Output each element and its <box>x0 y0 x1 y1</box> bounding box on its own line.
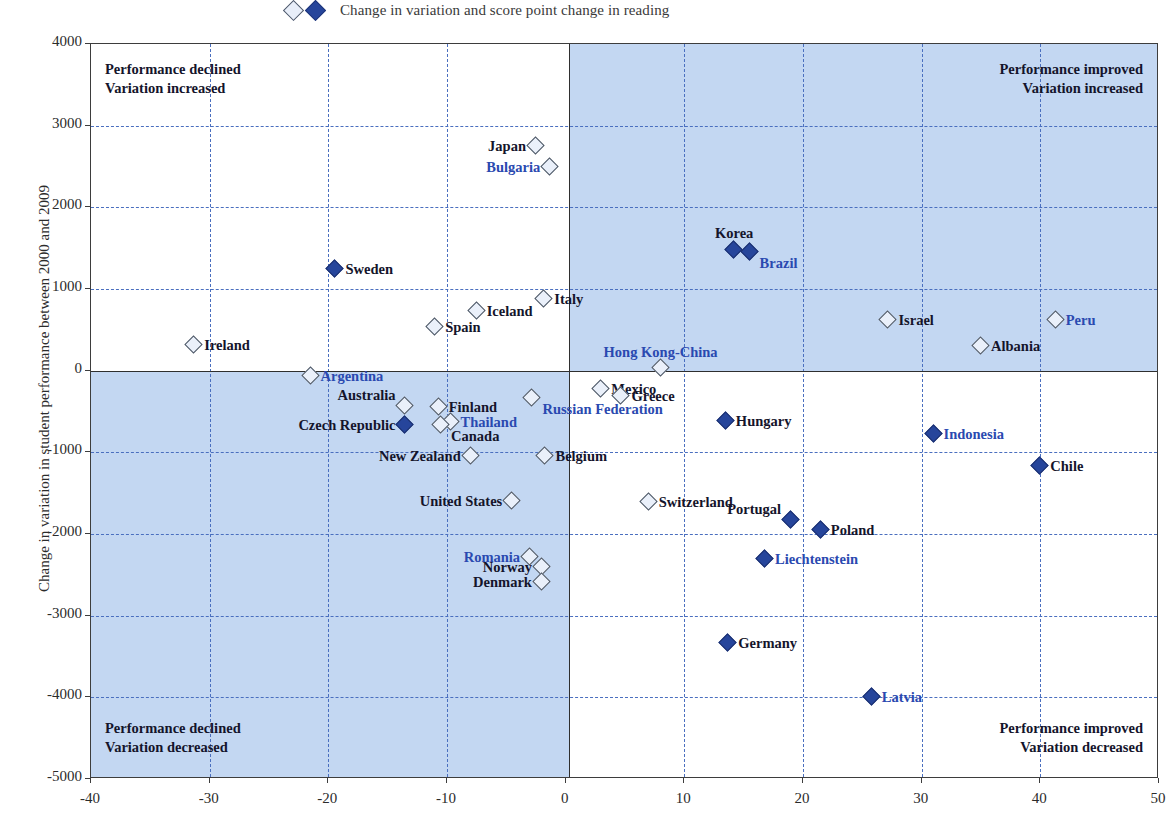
data-point-label: Ireland <box>204 338 250 353</box>
filled-diamond-icon <box>719 634 737 652</box>
data-point-label: Sweden <box>345 262 393 277</box>
quadrant-caption-bottom-right-line2: Variation decreased <box>1000 738 1143 757</box>
gridline-vertical <box>210 44 211 777</box>
y-tick-mark <box>85 533 90 534</box>
filled-diamond-icon <box>305 0 326 21</box>
data-point-label: Liechtenstein <box>775 552 858 567</box>
x-tick-mark <box>209 778 210 783</box>
x-tick-label: 30 <box>891 790 951 807</box>
y-tick-label: 4000 <box>8 33 82 50</box>
data-point-label: Germany <box>738 636 797 651</box>
y-axis-ticks: 40003000200010000-1000-2000-3000-4000-50… <box>0 0 90 820</box>
gridline-horizontal <box>91 534 1157 535</box>
data-point-label: Italy <box>554 292 583 307</box>
data-point-label: Greece <box>631 389 674 404</box>
y-tick-label: 3000 <box>8 115 82 132</box>
data-point-label: Czech Republic <box>298 418 395 433</box>
y-tick-mark <box>85 451 90 452</box>
data-point-label: United States <box>420 494 503 509</box>
x-tick-mark <box>683 778 684 783</box>
y-tick-mark <box>85 696 90 697</box>
x-tick-label: -20 <box>297 790 357 807</box>
y-tick-mark <box>85 615 90 616</box>
y-tick-mark <box>85 370 90 371</box>
quadrant-caption-bottom-left-line2: Variation decreased <box>105 738 241 757</box>
open-diamond-icon <box>639 492 657 510</box>
filled-diamond-icon <box>1031 457 1049 475</box>
quadrant-caption-top-right-line2: Variation increased <box>1000 79 1143 98</box>
y-tick-label: 2000 <box>8 196 82 213</box>
data-point-label: Hungary <box>736 414 792 429</box>
data-point-label: Hong Kong-China <box>604 345 718 360</box>
y-tick-label: -2000 <box>8 523 82 540</box>
data-point-label: Belgium <box>555 449 607 464</box>
y-tick-mark <box>85 288 90 289</box>
y-tick-mark <box>85 778 90 779</box>
data-point-label: Brazil <box>760 256 798 271</box>
x-tick-label: 40 <box>1009 790 1069 807</box>
x-tick-mark <box>446 778 447 783</box>
gridline-vertical <box>922 44 923 777</box>
data-point-label: Japan <box>488 139 526 154</box>
data-point-label: Portugal <box>727 502 781 517</box>
data-point-label: Switzerland <box>659 495 733 510</box>
y-tick-label: 0 <box>8 360 82 377</box>
y-tick-mark <box>85 125 90 126</box>
quadrant-caption-bottom-right-line1: Performance improved <box>1000 719 1143 738</box>
quadrant-caption-top-left-line1: Performance declined <box>105 60 241 79</box>
quadrant-caption-top-right-line1: Performance improved <box>1000 60 1143 79</box>
data-point-label: Russian Federation <box>542 402 662 417</box>
y-tick-label: -5000 <box>8 768 82 785</box>
open-diamond-icon <box>541 157 559 175</box>
data-point-label: Iceland <box>487 304 533 319</box>
data-point-label: Israel <box>898 313 933 328</box>
gridline-horizontal <box>91 697 1157 698</box>
data-point-label: Spain <box>445 320 480 335</box>
y-tick-label: -1000 <box>8 441 82 458</box>
gridline-horizontal <box>91 289 1157 290</box>
open-diamond-icon <box>283 0 304 21</box>
legend-label: Change in variation and score point chan… <box>340 2 669 19</box>
chart-canvas: Change in variation and score point chan… <box>0 0 1168 820</box>
x-tick-label: 0 <box>535 790 595 807</box>
gridline-vertical <box>328 44 329 777</box>
data-point-label: Norway <box>483 560 532 575</box>
gridline-horizontal <box>91 452 1157 453</box>
gridline-vertical <box>803 44 804 777</box>
y-tick-label: -4000 <box>8 686 82 703</box>
data-point-label: Canada <box>451 429 499 444</box>
data-point-label: Chile <box>1050 459 1083 474</box>
filled-diamond-icon <box>716 412 734 430</box>
data-point-label: New Zealand <box>379 449 461 464</box>
open-diamond-icon <box>185 335 203 353</box>
quadrant-caption-top-left-line2: Variation increased <box>105 79 241 98</box>
filled-diamond-icon <box>781 510 799 528</box>
open-diamond-icon <box>535 289 553 307</box>
data-point-label: Australia <box>337 388 395 403</box>
open-diamond-icon <box>592 379 610 397</box>
filled-diamond-icon <box>755 550 773 568</box>
open-diamond-icon <box>526 136 544 154</box>
data-point-label: Bulgaria <box>486 160 540 175</box>
x-tick-mark <box>1158 778 1159 783</box>
data-point-label: Poland <box>831 523 875 538</box>
x-tick-label: 10 <box>653 790 713 807</box>
open-diamond-icon <box>467 301 485 319</box>
y-zero-axis <box>91 371 1157 372</box>
y-tick-label: -3000 <box>8 605 82 622</box>
x-tick-mark <box>1039 778 1040 783</box>
x-tick-mark <box>90 778 91 783</box>
data-point-label: Peru <box>1066 313 1096 328</box>
y-tick-mark <box>85 43 90 44</box>
x-tick-label: 20 <box>772 790 832 807</box>
data-point-label: Denmark <box>473 575 532 590</box>
y-tick-label: 1000 <box>8 278 82 295</box>
data-point-label: Indonesia <box>944 427 1004 442</box>
x-tick-mark <box>802 778 803 783</box>
quadrant-caption-bottom-left-line1: Performance declined <box>105 719 241 738</box>
quadrant-caption-top-left: Performance declined Variation increased <box>105 60 241 98</box>
data-point-label: Albania <box>991 339 1040 354</box>
filled-diamond-icon <box>924 424 942 442</box>
open-diamond-icon <box>425 318 443 336</box>
chart-legend: Change in variation and score point chan… <box>286 2 669 19</box>
